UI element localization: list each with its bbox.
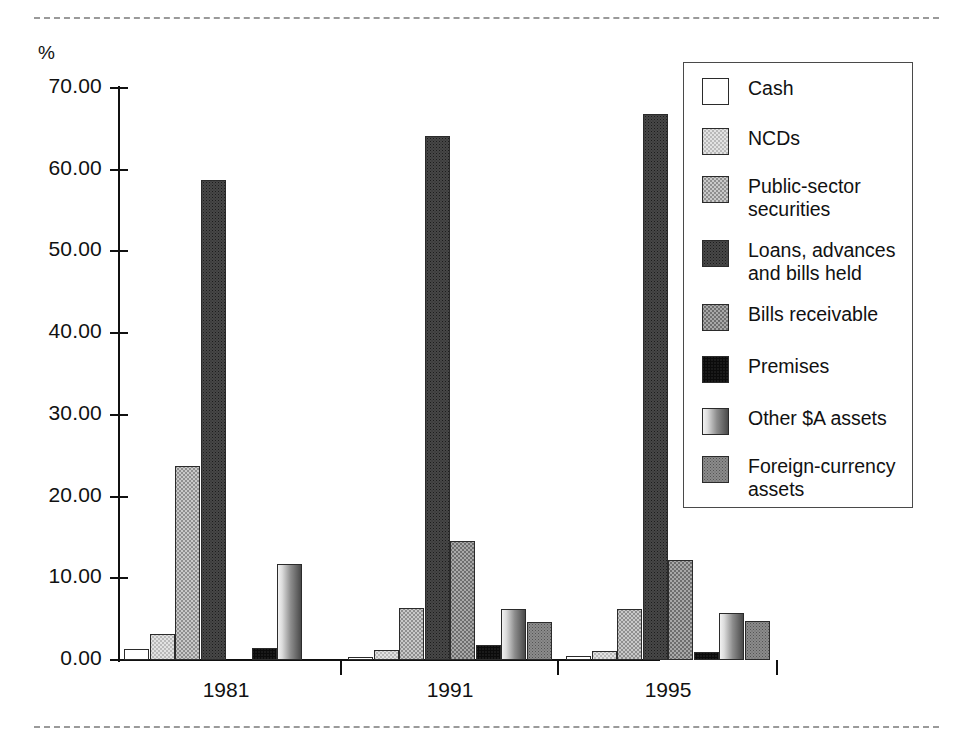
y-axis-tick-mark: [110, 577, 128, 579]
legend-label-loans-advances-and-bills-held: Loans, advances and bills held: [748, 239, 895, 285]
y-axis-tick-mark: [110, 250, 128, 252]
legend-item-other-a-assets: Other $A assets: [702, 407, 887, 435]
bar-foreign-currency-assets-1995: [745, 621, 770, 660]
bar-other-a-assets-1981: [277, 564, 302, 660]
bar-premises-1981: [252, 648, 277, 660]
legend-label-bills-receivable: Bills receivable: [748, 303, 878, 326]
legend-label-cash: Cash: [748, 77, 794, 100]
y-axis-tick-label: 60.00: [16, 156, 102, 180]
x-axis-tick-mark: [340, 660, 342, 675]
bar-cash-1981: [124, 649, 149, 660]
x-axis-tick-label-1995: 1995: [608, 678, 728, 702]
y-axis-tick-mark: [110, 496, 128, 498]
legend-swatch-premises: [702, 356, 729, 383]
legend-item-premises: Premises: [702, 355, 829, 383]
y-axis-tick-mark: [110, 414, 128, 416]
legend-swatch-loans-advances-and-bills-held: [702, 240, 729, 267]
legend-item-cash: Cash: [702, 77, 794, 105]
y-axis-tick-mark: [110, 169, 128, 171]
bar-foreign-currency-assets-1991: [527, 622, 552, 660]
legend-item-bills-receivable: Bills receivable: [702, 303, 878, 331]
bar-loans-advances-and-bills-held-1995: [643, 114, 668, 660]
bar-loans-advances-and-bills-held-1981: [201, 180, 226, 660]
chart-legend: CashNCDsPublic-sector securitiesLoans, a…: [683, 62, 913, 508]
bar-public-sector-securities-1995: [617, 609, 642, 660]
legend-item-public-sector-securities: Public-sector securities: [702, 175, 861, 221]
legend-label-foreign-currency-assets: Foreign-currency assets: [748, 455, 895, 501]
legend-swatch-ncds: [702, 128, 729, 155]
x-axis-tick-mark: [776, 660, 778, 675]
y-axis-unit-label: %: [38, 42, 55, 64]
bar-premises-1995: [694, 652, 719, 660]
legend-swatch-cash: [702, 78, 729, 105]
bar-public-sector-securities-1981: [175, 466, 200, 660]
bar-ncds-1991: [374, 650, 399, 660]
bar-loans-advances-and-bills-held-1991: [425, 136, 450, 660]
legend-label-public-sector-securities: Public-sector securities: [748, 175, 861, 221]
legend-item-foreign-currency-assets: Foreign-currency assets: [702, 455, 895, 501]
legend-item-ncds: NCDs: [702, 127, 800, 155]
y-axis-tick-mark: [110, 332, 128, 334]
bar-ncds-1981: [150, 634, 175, 660]
figure: % 0.0010.0020.0030.0040.0050.0060.0070.0…: [0, 0, 957, 746]
x-axis-tick-label-1991: 1991: [390, 678, 510, 702]
y-axis-tick-label: 30.00: [16, 401, 102, 425]
bar-bills-receivable-1991: [450, 541, 475, 660]
bar-cash-1995: [566, 656, 591, 660]
x-axis-tick-label-1981: 1981: [166, 678, 286, 702]
y-axis-line: [118, 86, 120, 662]
y-axis-tick-label: 40.00: [16, 319, 102, 343]
y-axis-tick-label: 0.00: [16, 646, 102, 670]
x-axis-tick-mark: [557, 660, 559, 675]
y-axis-tick-label: 70.00: [16, 74, 102, 98]
legend-swatch-foreign-currency-assets: [702, 456, 729, 483]
y-axis-tick-mark: [110, 87, 128, 89]
legend-swatch-public-sector-securities: [702, 176, 729, 203]
bar-cash-1991: [348, 657, 373, 660]
y-axis-tick-label: 50.00: [16, 237, 102, 261]
legend-label-premises: Premises: [748, 355, 829, 378]
bar-other-a-assets-1991: [501, 609, 526, 660]
bar-other-a-assets-1995: [719, 613, 744, 660]
bar-bills-receivable-1995: [668, 560, 693, 660]
legend-item-loans-advances-and-bills-held: Loans, advances and bills held: [702, 239, 895, 285]
legend-swatch-other-a-assets: [702, 408, 729, 435]
legend-label-other-a-assets: Other $A assets: [748, 407, 887, 430]
bar-public-sector-securities-1991: [399, 608, 424, 660]
bar-ncds-1995: [592, 651, 617, 660]
bar-premises-1991: [476, 645, 501, 660]
legend-label-ncds: NCDs: [748, 127, 800, 150]
y-axis-tick-label: 10.00: [16, 564, 102, 588]
y-axis-tick-label: 20.00: [16, 483, 102, 507]
legend-swatch-bills-receivable: [702, 304, 729, 331]
